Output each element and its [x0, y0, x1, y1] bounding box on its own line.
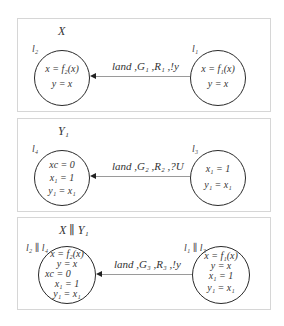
state-assignment: y₁ = x₁ [191, 179, 245, 190]
transition-label: land ,G₃ ,R₃ ,!y [114, 258, 181, 270]
state-l2[interactable]: x = f₂(x) y = x [34, 50, 90, 106]
state-l2-l4[interactable]: x = f₂(x) y = x xс = 0 x₁ = 1 y₁ = x₁ [38, 246, 96, 304]
arrow-head-icon [90, 173, 96, 179]
state-assignment: x = f₁(x) [191, 63, 245, 74]
automaton-panel-x: X l₂ x = f₂(x) y = x l₁ x = f₁(x) y = x … [17, 18, 271, 112]
state-assignment: x₁ = 1 [193, 271, 249, 281]
transition-edge[interactable] [96, 176, 190, 177]
state-assignment: y = x [191, 78, 245, 89]
arrow-head-icon [90, 73, 96, 79]
state-l1[interactable]: x = f₁(x) y = x [190, 50, 246, 106]
state-label: l₂ [32, 43, 38, 54]
automaton-panel-product: X ∥ Y₁ l₂ ∥ l₄ x = f₂(x) y = x xс = 0 x₁… [17, 217, 271, 310]
state-assignment: x₁ = 1 [35, 172, 89, 183]
state-assignment: x₁ = 1 [191, 163, 245, 174]
state-l4[interactable]: xс = 0 x₁ = 1 y₁ = x₁ [34, 150, 90, 206]
state-assignment: xс = 0 [35, 159, 89, 170]
transition-edge[interactable] [102, 274, 192, 275]
state-l3[interactable]: x₁ = 1 y₁ = x₁ [190, 150, 246, 206]
state-l1-l3[interactable]: x = f₁(x) y = x x₁ = 1 y₁ = x₁ [192, 246, 250, 304]
automaton-panel-y1: Y₁ l₄ xс = 0 x₁ = 1 y₁ = x₁ l₃ x₁ = 1 y₁… [17, 118, 271, 212]
arrow-head-icon [96, 271, 102, 277]
state-assignment: x = f₂(x) [35, 63, 89, 74]
state-label: l₃ [192, 143, 198, 154]
state-assignment: y₁ = x₁ [35, 185, 89, 196]
state-label: l₄ [32, 143, 38, 154]
state-assignment: y = x [35, 78, 89, 89]
state-label: l₁ [192, 43, 198, 54]
automaton-title: X [58, 24, 65, 39]
transition-edge[interactable] [96, 76, 190, 77]
state-assignment: y₁ = x₁ [193, 283, 249, 293]
automaton-title: X ∥ Y₁ [59, 223, 89, 238]
transition-label: land ,G₁ ,R₁ ,!y [112, 60, 179, 72]
transition-label: land ,G₂ ,R₂ ,?U [112, 160, 184, 172]
automaton-title: Y₁ [58, 124, 69, 139]
state-assignment: y₁ = x₁ [39, 289, 95, 299]
